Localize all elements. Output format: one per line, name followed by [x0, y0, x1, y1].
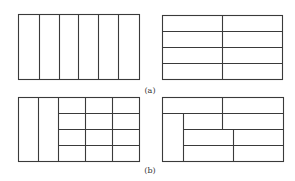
- caption-b: (b): [144, 166, 155, 175]
- panel-a-left: [19, 15, 140, 80]
- caption-a: (a): [144, 86, 155, 95]
- panel-b-left: [19, 98, 140, 162]
- panel-a-right: [163, 16, 283, 80]
- panel-b-right: [163, 98, 284, 162]
